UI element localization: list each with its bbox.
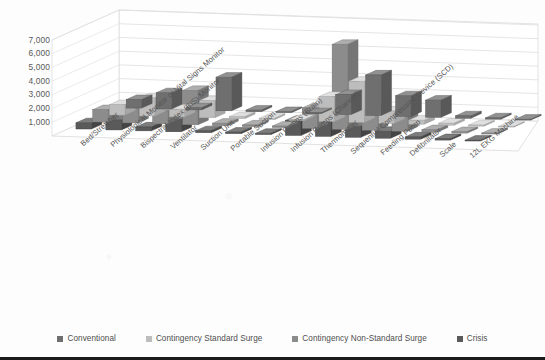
legend-label: Conventional: [67, 334, 115, 343]
x-axis-labels: Bed/StretcherPhysiological Monitor or Vi…: [0, 0, 545, 300]
legend-item[interactable]: Conventional: [57, 334, 115, 343]
x-axis-label: Scale: [439, 140, 459, 159]
legend-swatch-icon: [292, 336, 298, 342]
legend-item[interactable]: Crisis: [457, 334, 488, 343]
x-axis-label: Physiological Monitor or Vital Signs Mon…: [110, 46, 227, 149]
legend-swatch-icon: [57, 336, 63, 342]
legend-swatch-icon: [146, 336, 152, 342]
legend-label: Crisis: [467, 334, 488, 343]
chart-container: 1,0002,0003,0004,0005,0006,0007,000 Bed/…: [0, 0, 545, 360]
chart-legend: ConventionalContingency Standard SurgeCo…: [0, 334, 545, 343]
legend-label: Contingency Standard Surge: [156, 334, 262, 343]
legend-item[interactable]: Contingency Standard Surge: [146, 334, 262, 343]
legend-swatch-icon: [457, 336, 463, 342]
legend-item[interactable]: Contingency Non-Standard Surge: [292, 334, 426, 343]
x-axis-label: Ventilator: [169, 124, 199, 151]
x-axis-label: 12L EKG Machine: [469, 113, 521, 160]
x-axis-label: Sequential Compression Device (SCD): [349, 63, 455, 156]
legend-label: Contingency Non-Standard Surge: [302, 334, 426, 343]
